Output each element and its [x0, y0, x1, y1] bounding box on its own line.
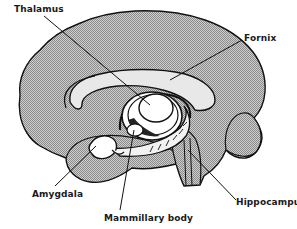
label-fornix: Fornix	[244, 33, 276, 43]
label-amygdala: Amygdala	[32, 189, 83, 199]
mammillary-body	[127, 124, 143, 136]
label-mammillary-body: Mammillary body	[104, 213, 193, 223]
thalamus	[139, 94, 173, 122]
label-hippocampus: Hippocampus	[236, 197, 297, 207]
label-thalamus: Thalamus	[14, 4, 64, 14]
